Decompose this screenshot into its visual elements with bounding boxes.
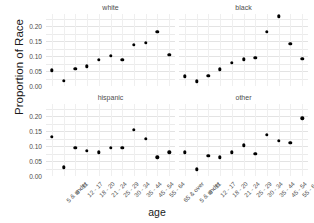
facet-strip-label-white: white [46,2,175,14]
data-point [109,54,112,57]
data-point [74,146,77,149]
gridline-vertical [87,14,88,86]
data-point [207,154,210,157]
data-point [85,64,88,67]
data-point [144,137,147,140]
y-axis-tick-label: 0.05 [18,158,42,165]
gridline-vertical [146,104,147,176]
y-axis-tick-label: 0.15 [18,38,42,45]
data-point [300,57,303,60]
y-axis-tick-label: 0.00 [18,83,42,90]
gridline-vertical [208,104,209,176]
y-axis-tick-label: 0.10 [18,53,42,60]
gridline-vertical [244,14,245,86]
data-point [132,43,135,46]
data-point [156,156,159,159]
gridline-vertical [302,104,303,176]
x-axis-title: age [0,206,314,218]
data-point [265,133,268,136]
y-axis-ticks-top-row: 0.000.050.100.150.20 [16,14,42,86]
data-point [254,152,257,155]
y-axis-tick-label: 0.10 [18,143,42,150]
gridline-vertical [255,14,256,86]
gridline-vertical [157,14,158,86]
data-point [254,56,257,59]
gridline-vertical [197,104,198,176]
facet-panel-grid: white black hispanic other [46,2,308,178]
facet-strip-label-hispanic: hispanic [46,92,175,104]
data-point [195,168,198,171]
data-point [277,139,280,142]
y-axis-tick-label: 0.20 [18,113,42,120]
data-point [144,41,147,44]
gridline-vertical [111,104,112,176]
data-point [121,146,124,149]
data-point [242,58,245,61]
gridline-vertical [134,104,135,176]
data-point [218,156,221,159]
gridline-vertical [99,14,100,86]
plot-area-hispanic [46,104,175,176]
data-point [109,146,112,149]
gridline-vertical [185,104,186,176]
data-point [289,42,292,45]
data-point [121,58,124,61]
gridline-vertical [232,104,233,176]
y-axis-tick-label: 0.05 [18,68,42,75]
gridline-vertical [146,14,147,86]
gridline-vertical [87,104,88,176]
gridline-vertical [279,14,280,86]
gridline-vertical [99,104,100,176]
gridline-vertical [255,104,256,176]
facet-panel-hispanic: hispanic [46,92,175,176]
facet-strip-label-black: black [179,2,308,14]
gridline-vertical [169,104,170,176]
data-point [195,79,198,82]
gridline-vertical [64,14,65,86]
gridline-vertical [122,14,123,86]
plot-area-white [46,14,175,86]
gridline-vertical [267,14,268,86]
gridline-vertical [52,14,53,86]
gridline-vertical [244,104,245,176]
gridline-vertical [52,104,53,176]
gridline-vertical [267,104,268,176]
y-axis-tick-label: 0.20 [18,23,42,30]
gridline-vertical [220,104,221,176]
plot-area-black [179,14,308,86]
y-axis-tick-label: 0.15 [18,128,42,135]
data-point [85,149,88,152]
data-point [97,58,100,61]
y-axis-tick-label: 0.00 [18,173,42,180]
gridline-vertical [122,104,123,176]
gridline-vertical [75,14,76,86]
facet-panel-other: other [179,92,308,176]
chart-figure: Proportion of Race 0.000.050.100.150.20 … [0,0,314,223]
gridline-vertical [75,104,76,176]
facet-panel-white: white [46,2,175,86]
data-point [289,141,292,144]
data-point [207,74,210,77]
y-axis-ticks-bottom-row: 0.000.050.100.150.20 [16,104,42,176]
gridline-vertical [134,14,135,86]
gridline-vertical [220,14,221,86]
plot-area-other [179,104,308,176]
gridline-vertical [197,14,198,86]
gridline-vertical [111,14,112,86]
gridline-vertical [232,14,233,86]
gridline-vertical [169,14,170,86]
gridline-vertical [157,104,158,176]
facet-panel-black: black [179,2,308,86]
gridline-vertical [290,14,291,86]
gridline-vertical [302,14,303,86]
data-point [300,117,303,120]
data-point [62,79,65,82]
gridline-vertical [290,104,291,176]
facet-strip-label-other: other [179,92,308,104]
